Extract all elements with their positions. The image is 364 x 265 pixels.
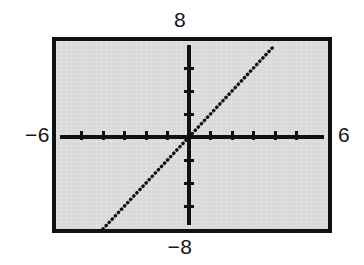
x-axis-min-label: −6	[8, 124, 50, 145]
plot-frame	[52, 37, 332, 233]
graph-screenshot: 8 −6 6 −8	[0, 0, 364, 265]
x-axis-max-label: 6	[338, 124, 362, 145]
graph-curve	[56, 41, 328, 229]
y-axis-min-label: −8	[0, 236, 364, 257]
y-axis-max-label: 8	[0, 9, 364, 30]
series-line	[103, 45, 275, 229]
plot-area	[56, 41, 328, 229]
